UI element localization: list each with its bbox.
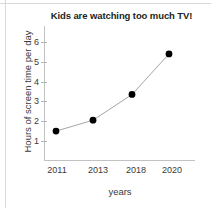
chart-figure: Kids are watching too much TV! Hours of … xyxy=(0,0,211,208)
series-line xyxy=(56,54,169,131)
data-point xyxy=(166,50,173,57)
data-series-plot xyxy=(0,0,211,208)
series-points xyxy=(53,50,173,134)
data-point xyxy=(53,128,60,135)
data-point xyxy=(90,117,97,124)
data-point xyxy=(129,91,136,98)
